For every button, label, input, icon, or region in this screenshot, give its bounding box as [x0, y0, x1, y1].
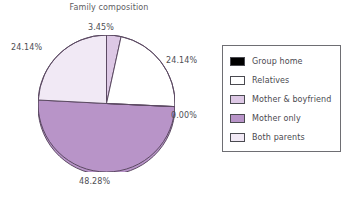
data-label-relatives: 24.14%: [166, 56, 197, 65]
legend-swatch-mother-boyfriend: [230, 95, 245, 104]
legend-item-list: Group home Relatives Mother & boyfriend …: [230, 52, 337, 147]
pie-slice-both-parents[interactable]: [38, 35, 106, 104]
pie-chart-figure: Family composition 3.45% 24.14% 24.14% 0…: [0, 0, 352, 197]
legend-label-mother-only: Mother only: [252, 114, 301, 123]
pie-svg: [38, 35, 175, 172]
legend-label-relatives: Relatives: [252, 76, 289, 85]
data-label-mother-only: 48.28%: [79, 177, 110, 186]
legend-item-relatives[interactable]: Relatives: [230, 71, 337, 90]
legend-item-mother-only[interactable]: Mother only: [230, 109, 337, 128]
legend-swatch-both-parents: [230, 133, 245, 142]
chart-title: Family composition: [0, 3, 218, 12]
data-label-both-parents: 24.14%: [11, 43, 42, 52]
pie-chart-plot-area: [38, 35, 175, 172]
legend-label-both-parents: Both parents: [252, 133, 305, 142]
legend-label-group-home: Group home: [252, 57, 303, 66]
legend-label-mother-boyfriend: Mother & boyfriend: [252, 95, 331, 104]
legend-item-group-home[interactable]: Group home: [230, 52, 337, 71]
chart-legend: Group home Relatives Mother & boyfriend …: [222, 45, 341, 152]
legend-item-mother-boyfriend[interactable]: Mother & boyfriend: [230, 90, 337, 109]
legend-swatch-group-home: [230, 57, 245, 66]
legend-swatch-mother-only: [230, 114, 245, 123]
legend-swatch-relatives: [230, 76, 245, 85]
pie-slice-mother-only[interactable]: [38, 100, 175, 172]
data-label-group-home: 0.00%: [171, 111, 197, 120]
data-label-mother-boyfriend: 3.45%: [88, 23, 114, 32]
legend-item-both-parents[interactable]: Both parents: [230, 128, 337, 147]
